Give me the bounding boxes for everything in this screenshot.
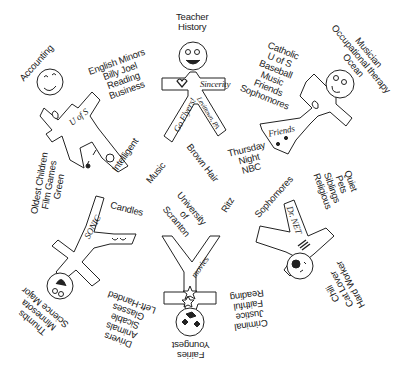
label-fig6-arm: Criminal Justice Faithful Reading <box>229 288 268 332</box>
figure-bottom-center <box>162 236 220 336</box>
label-fig5-head: Fairies Youngest <box>172 340 210 360</box>
label-fig2-head: Teacher History <box>176 12 208 32</box>
badge-sincerity: Sincerity <box>200 79 230 89</box>
